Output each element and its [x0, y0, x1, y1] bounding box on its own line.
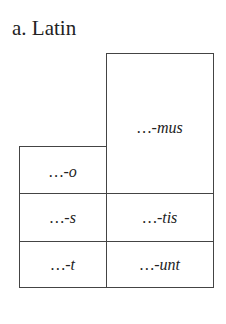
cell-3pl-text: …-unt	[140, 256, 180, 274]
cell-1sg-text: …-o	[49, 163, 77, 181]
cell-2sg: …-s	[19, 193, 107, 242]
cell-3sg: …-t	[19, 241, 107, 288]
cell-2pl: …-tis	[106, 193, 214, 242]
diagram-title: a. Latin	[12, 16, 76, 40]
cell-3sg-text: …-t	[51, 256, 75, 274]
cell-1pl: …-mus	[106, 53, 214, 194]
cell-1pl-text: …-mus	[137, 119, 182, 137]
cell-1sg: …-o	[19, 146, 107, 194]
cell-3pl: …-unt	[106, 241, 214, 288]
cell-2pl-text: …-tis	[143, 209, 178, 227]
cell-2sg-text: …-s	[50, 209, 76, 227]
